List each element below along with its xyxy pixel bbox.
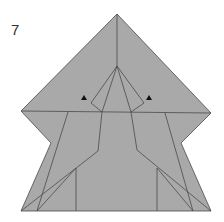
origami-figure	[0, 0, 224, 222]
origami-diagram: 7	[0, 0, 224, 222]
